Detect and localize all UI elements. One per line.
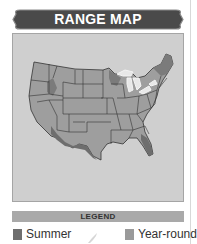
us-map-icon [13,34,183,201]
legend-label-year-round: Year-round [138,227,197,241]
bird-silhouette-icon [86,232,98,244]
year-round-swatch-icon [125,229,134,240]
page-title: RANGE MAP [12,9,184,30]
legend-header: LEGEND [12,211,184,222]
range-map-banner: RANGE MAP [12,9,184,30]
summer-swatch-icon [13,229,22,240]
page-divider [190,0,191,244]
legend-item-year-round: Year-round [125,227,197,241]
range-map [12,33,184,202]
legend-title: LEGEND [12,211,184,222]
legend-label-summer: Summer [26,227,71,241]
legend-item-summer: Summer [13,227,71,241]
